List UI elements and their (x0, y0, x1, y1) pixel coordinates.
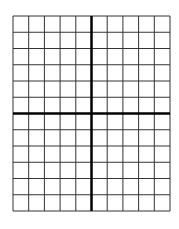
coordinate-grid (0, 0, 179, 229)
